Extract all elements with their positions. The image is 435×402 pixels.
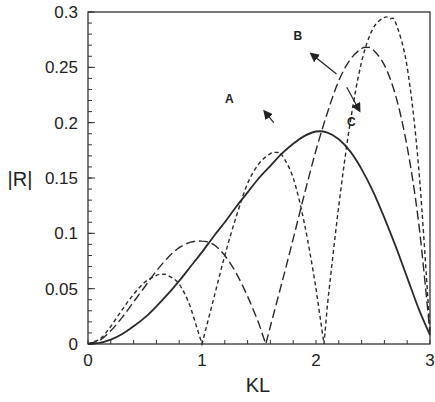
y-tick-label: 0.1: [54, 224, 78, 243]
chart: 0123 00.050.10.150.20.250.3 ABC KL |R|: [0, 0, 435, 402]
annotation-label-B: B: [293, 29, 302, 43]
x-axis-label: KL: [246, 374, 270, 396]
x-tick-label: 0: [83, 351, 92, 370]
y-tick-label: 0.05: [45, 280, 78, 299]
series-B-line: [88, 47, 430, 344]
y-tick-label: 0.25: [45, 58, 78, 77]
y-tick-label: 0.3: [54, 3, 78, 22]
x-tick-label: 3: [425, 351, 434, 370]
x-tick-label: 1: [197, 351, 206, 370]
annotation-arrow-A: [265, 112, 274, 123]
annotation-label-C: C: [347, 115, 356, 129]
y-tick-label: 0.15: [45, 169, 78, 188]
y-tick-label: 0.2: [54, 114, 78, 133]
y-tick-label: 0: [69, 335, 78, 354]
y-axis-label: |R|: [8, 168, 33, 190]
annotation-label-A: A: [225, 92, 234, 106]
series-lines: [88, 17, 430, 344]
x-tick-label: 2: [311, 351, 320, 370]
annotation-arrow-B: [311, 54, 336, 74]
